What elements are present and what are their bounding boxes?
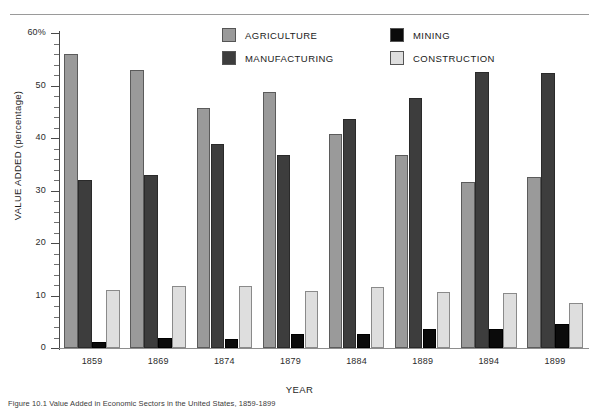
y-tick-minor (54, 96, 59, 97)
x-tick-label-1879: 1879 (257, 356, 323, 366)
y-tick-minor (54, 264, 59, 265)
y-tick-minor (54, 317, 59, 318)
bar-mining-1894 (489, 329, 503, 348)
bar-agriculture-1899 (527, 177, 541, 348)
bar-agriculture-1859 (64, 54, 78, 348)
y-tick-label: 50 (0, 80, 46, 90)
bar-manufacturing-1874 (211, 144, 225, 348)
x-tick-label-1889: 1889 (390, 356, 456, 366)
bar-construction-1879 (305, 291, 319, 348)
legend-item-construction[interactable]: CONSTRUCTION (390, 51, 495, 65)
y-tick-minor (54, 180, 59, 181)
bar-construction-1894 (503, 293, 517, 348)
legend-swatch-construction (390, 51, 404, 65)
legend-label-construction: CONSTRUCTION (413, 53, 495, 64)
y-tick-minor (54, 201, 59, 202)
bar-agriculture-1874 (197, 108, 211, 348)
bar-construction-1889 (437, 292, 451, 348)
y-tick-minor (54, 65, 59, 66)
bar-mining-1874 (225, 339, 239, 348)
bar-manufacturing-1894 (475, 72, 489, 348)
y-tick-label: 30 (0, 185, 46, 195)
y-tick-major (51, 243, 59, 244)
y-tick-label: 40 (0, 132, 46, 142)
legend-label-agriculture: AGRICULTURE (245, 30, 317, 41)
y-tick-major (51, 191, 59, 192)
bar-manufacturing-1869 (144, 175, 158, 348)
legend-item-mining[interactable]: MINING (390, 28, 450, 42)
bar-mining-1899 (555, 324, 569, 348)
bar-construction-1884 (371, 287, 385, 348)
x-tick-label-1874: 1874 (191, 356, 257, 366)
y-axis-title: VALUE ADDED (percentage) (12, 56, 23, 256)
legend-item-manufacturing[interactable]: MANUFACTURING (222, 51, 334, 65)
top-divider-rule (10, 14, 589, 15)
y-tick-minor (54, 338, 59, 339)
x-tick-label-1894: 1894 (456, 356, 522, 366)
y-tick-major (51, 138, 59, 139)
bar-mining-1869 (158, 338, 172, 349)
figure-root: 0102030405060% VALUE ADDED (percentage) … (0, 0, 599, 409)
bar-construction-1869 (172, 286, 186, 348)
legend-label-mining: MINING (413, 30, 450, 41)
y-tick-label: 10 (0, 290, 46, 300)
y-tick-label: 20 (0, 237, 46, 247)
y-tick-major (51, 33, 59, 34)
y-tick-minor (54, 117, 59, 118)
x-tick-label-1884: 1884 (324, 356, 390, 366)
legend-item-agriculture[interactable]: AGRICULTURE (222, 28, 317, 42)
y-tick-minor (54, 170, 59, 171)
y-tick-minor (54, 54, 59, 55)
y-tick-label: 60% (0, 27, 46, 37)
bar-agriculture-1879 (263, 92, 277, 348)
x-tick-label-1869: 1869 (125, 356, 191, 366)
y-tick-minor (54, 275, 59, 276)
figure-caption: Figure 10.1 Value Added in Economic Sect… (8, 399, 588, 408)
x-tick-label-1859: 1859 (59, 356, 125, 366)
y-tick-major (51, 296, 59, 297)
y-tick-minor (54, 233, 59, 234)
bar-agriculture-1884 (329, 134, 343, 348)
y-tick-major (51, 86, 59, 87)
bar-construction-1899 (569, 303, 583, 348)
bar-mining-1889 (423, 329, 437, 348)
y-tick-major (51, 348, 59, 349)
bar-manufacturing-1899 (541, 73, 555, 348)
y-tick-minor (54, 285, 59, 286)
y-tick-minor (54, 149, 59, 150)
y-tick-minor (54, 222, 59, 223)
bar-mining-1884 (357, 334, 371, 348)
legend-swatch-agriculture (222, 28, 236, 42)
x-tick-label-1899: 1899 (522, 356, 588, 366)
x-axis-title: YEAR (0, 384, 599, 395)
y-tick-minor (54, 44, 59, 45)
y-tick-minor (54, 128, 59, 129)
y-tick-minor (54, 75, 59, 76)
bar-agriculture-1889 (395, 155, 409, 348)
y-tick-minor (54, 254, 59, 255)
x-axis-line (59, 348, 589, 349)
legend-swatch-manufacturing (222, 51, 236, 65)
bar-manufacturing-1889 (409, 98, 423, 348)
legend: AGRICULTURE MANUFACTURING MINING CONSTRU… (222, 28, 552, 74)
bar-agriculture-1869 (130, 70, 144, 348)
bar-mining-1879 (291, 334, 305, 348)
y-tick-label: 0 (0, 342, 46, 352)
legend-label-manufacturing: MANUFACTURING (245, 53, 334, 64)
bar-construction-1859 (106, 290, 120, 348)
bar-manufacturing-1884 (343, 119, 357, 348)
y-tick-minor (54, 306, 59, 307)
y-axis-line (59, 31, 60, 350)
bar-manufacturing-1879 (277, 155, 291, 348)
y-tick-minor (54, 212, 59, 213)
bar-agriculture-1894 (461, 182, 475, 348)
y-tick-minor (54, 107, 59, 108)
legend-swatch-mining (390, 28, 404, 42)
bar-manufacturing-1859 (78, 180, 92, 348)
y-tick-minor (54, 327, 59, 328)
bar-mining-1859 (92, 342, 106, 348)
y-tick-minor (54, 159, 59, 160)
bar-construction-1874 (239, 286, 253, 348)
